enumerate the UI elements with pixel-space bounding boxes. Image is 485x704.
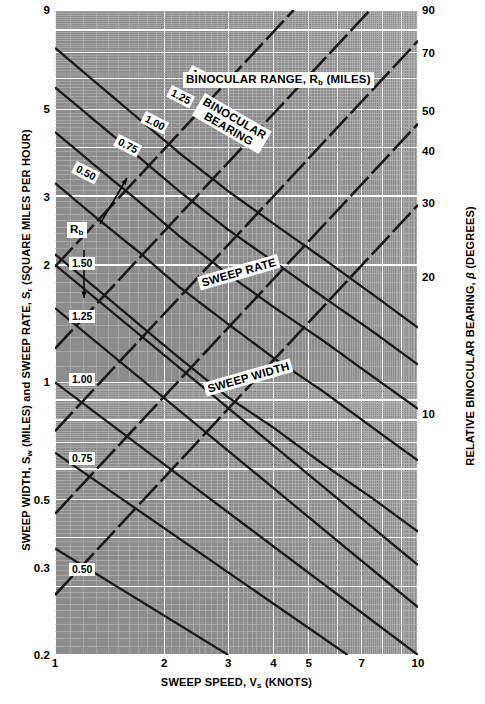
tickBot-2: 3 <box>225 657 231 669</box>
binocular-range-header: BINOCULAR RANGE, Rb (MILES) <box>183 72 374 88</box>
tickRight-1: 70 <box>422 47 452 59</box>
binocular-range-header-post: (MILES) <box>323 73 371 85</box>
tickRight-3: 40 <box>422 145 452 157</box>
ylab-c: (SQUARE MILES PER HOUR) <box>20 129 32 288</box>
tickBot-0: 1 <box>52 657 58 669</box>
curves-layer <box>55 10 418 655</box>
tickBot-5: 7 <box>359 657 365 669</box>
rb-callout-sub: b <box>79 228 84 237</box>
plot-area: 1.50 1.25 1.00 0.75 0.50 BINOCULAR RANGE… <box>55 10 418 655</box>
curve-label-width-125: 1.25 <box>69 310 95 323</box>
xlab-pre: SWEEP SPEED, V <box>161 676 257 688</box>
curve-label-width-100: 1.00 <box>69 373 95 386</box>
ylab-a: SWEEP WIDTH, S <box>20 457 32 551</box>
tickBot-4: 5 <box>306 657 312 669</box>
y-axis-right-title: RELATIVE BINOCULAR BEARING, β (DEGREES) <box>464 36 476 636</box>
tickLeft-0: 9 <box>0 4 50 16</box>
xlab-post: (KNOTS) <box>262 676 312 688</box>
figure-root: 1.50 1.25 1.00 0.75 0.50 BINOCULAR RANGE… <box>0 0 485 704</box>
binocular-range-header-pre: BINOCULAR RANGE, R <box>186 73 318 85</box>
tickRight-4: 30 <box>422 197 452 209</box>
ylab-b: (MILES) and SWEEP RATE, S <box>20 291 32 450</box>
curve-label-width-050: 0.50 <box>69 563 95 576</box>
tickBot-1: 2 <box>161 657 167 669</box>
tickRight-2: 50 <box>422 105 452 117</box>
curve-label-width-075: 0.75 <box>69 452 95 465</box>
tickBot-3: 4 <box>270 657 276 669</box>
y-axis-left-title: SWEEP WIDTH, Sw (MILES) and SWEEP RATE, … <box>20 20 34 660</box>
tickRight-6: 10 <box>422 408 452 420</box>
tickRight-5: 20 <box>422 271 452 283</box>
ylabR-post: (DEGREES) <box>464 206 476 272</box>
tickBot-6: 10 <box>412 657 425 669</box>
ylab-b-sub: r <box>25 288 34 291</box>
tickRight-0: 90 <box>422 4 452 16</box>
ylabR-pre: RELATIVE BINOCULAR BEARING, <box>464 279 476 466</box>
x-axis-title: SWEEP SPEED, Vs (KNOTS) <box>55 676 418 690</box>
ylab-a-sub: w <box>25 450 34 456</box>
rb-callout-pre: R <box>70 223 79 235</box>
curve-label-width-150: 1.50 <box>69 257 95 270</box>
rb-callout: Rb <box>67 222 87 238</box>
beta-symbol: β <box>464 272 476 279</box>
